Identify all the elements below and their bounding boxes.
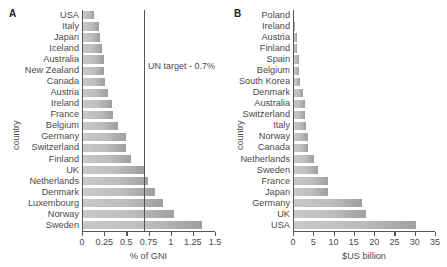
- bar-row: Switzerland: [0, 143, 224, 154]
- x-tick: [394, 232, 395, 236]
- bar-row: Spain: [223, 54, 447, 65]
- bar: [293, 221, 416, 229]
- bar-track: [293, 187, 447, 198]
- x-tick: [293, 232, 294, 236]
- bar: [293, 122, 306, 130]
- bar: [82, 221, 202, 229]
- bar: [82, 55, 104, 63]
- category-label: Canada: [223, 143, 293, 152]
- panel-a-y-axis-line: [82, 10, 83, 231]
- bar-row: Germany: [0, 132, 224, 143]
- bar-row: Sweden: [223, 165, 447, 176]
- category-label: Ireland: [0, 99, 82, 108]
- x-tick-label: 1.25: [184, 237, 202, 247]
- x-tick: [193, 232, 194, 236]
- figure-root: A country USAItalyJapanIcelandAustraliaN…: [0, 0, 447, 267]
- bar: [293, 155, 314, 163]
- bar-track: [293, 10, 447, 21]
- bar: [82, 11, 94, 19]
- x-tick: [126, 232, 127, 236]
- x-tick-label: 0.5: [120, 237, 133, 247]
- x-tick-label: 35: [430, 237, 440, 247]
- bar: [82, 133, 126, 141]
- x-tick-label: 15: [349, 237, 359, 247]
- bar-track: [82, 154, 224, 165]
- panel-a-plot-area: USAItalyJapanIcelandAustraliaNew Zealand…: [0, 10, 224, 232]
- x-tick-label: 1: [168, 237, 173, 247]
- bar-track: [82, 87, 224, 98]
- category-label: Belgium: [223, 66, 293, 75]
- bar-track: [293, 43, 447, 54]
- bar-track: [82, 10, 224, 21]
- bar-row: Ireland: [0, 98, 224, 109]
- category-label: Denmark: [0, 188, 82, 197]
- un-target-line: [144, 10, 145, 231]
- bar-track: [82, 176, 224, 187]
- bar: [82, 67, 104, 75]
- category-label: Norway: [0, 210, 82, 219]
- bar-track: [293, 165, 447, 176]
- bar-row: Netherlands: [223, 154, 447, 165]
- bar: [82, 44, 102, 52]
- bar-track: [82, 109, 224, 120]
- category-label: Italy: [0, 22, 82, 31]
- bar: [293, 144, 308, 152]
- category-label: UK: [223, 210, 293, 219]
- x-tick-label: 0: [79, 237, 84, 247]
- category-label: USA: [0, 11, 82, 20]
- bar: [293, 166, 318, 174]
- panel-b-plot-area: PolandIrelandAustriaFinlandSpainBelgiumS…: [223, 10, 447, 232]
- bar: [82, 33, 100, 41]
- x-tick: [435, 232, 436, 236]
- bar-track: [82, 43, 224, 54]
- category-label: Australia: [0, 55, 82, 64]
- panel-b-y-axis-line: [293, 10, 294, 231]
- category-label: Norway: [223, 132, 293, 141]
- bar: [293, 133, 308, 141]
- bar-row: Austria: [223, 32, 447, 43]
- category-label: Poland: [223, 11, 293, 20]
- bar-track: [293, 109, 447, 120]
- bar-track: [293, 87, 447, 98]
- bar-row: Belgium: [0, 120, 224, 131]
- bar-row: Germany: [223, 198, 447, 209]
- category-label: Belgium: [0, 121, 82, 130]
- bar-track: [293, 76, 447, 87]
- panel-b-x-ticks: 05101520253035: [293, 232, 435, 250]
- panel-a: A country USAItalyJapanIcelandAustraliaN…: [0, 0, 224, 267]
- bar-row: Canada: [223, 143, 447, 154]
- category-label: Luxembourg: [0, 199, 82, 208]
- x-tick: [104, 232, 105, 236]
- x-tick-label: 10: [329, 237, 339, 247]
- bar-row: Ireland: [223, 21, 447, 32]
- bar-row: South Korea: [223, 76, 447, 87]
- bar-track: [293, 209, 447, 220]
- x-tick-label: 30: [410, 237, 420, 247]
- bar-row: Iceland: [0, 43, 224, 54]
- bar-row: Finland: [223, 43, 447, 54]
- panel-b-bar-rows: PolandIrelandAustriaFinlandSpainBelgiumS…: [223, 10, 447, 231]
- category-label: Ireland: [223, 22, 293, 31]
- x-tick-label: 0: [290, 237, 295, 247]
- bar-row: UK: [223, 209, 447, 220]
- panel-a-bar-rows: USAItalyJapanIcelandAustraliaNew Zealand…: [0, 10, 224, 231]
- bar-track: [293, 32, 447, 43]
- bar: [293, 188, 328, 196]
- x-tick-label: 25: [389, 237, 399, 247]
- bar-track: [82, 132, 224, 143]
- category-label: Denmark: [223, 88, 293, 97]
- bar-track: [82, 76, 224, 87]
- un-target-label: UN target - 0.7%: [148, 61, 215, 71]
- category-label: Germany: [0, 132, 82, 141]
- bar-track: [82, 21, 224, 32]
- category-label: Iceland: [0, 44, 82, 53]
- category-label: South Korea: [223, 77, 293, 86]
- category-label: Netherlands: [0, 177, 82, 186]
- category-label: USA: [223, 221, 293, 230]
- bar-row: Norway: [0, 209, 224, 220]
- bar-row: Denmark: [0, 187, 224, 198]
- bar: [82, 78, 105, 86]
- bar: [82, 122, 118, 130]
- x-tick-label: 5: [311, 237, 316, 247]
- bar-row: Norway: [223, 132, 447, 143]
